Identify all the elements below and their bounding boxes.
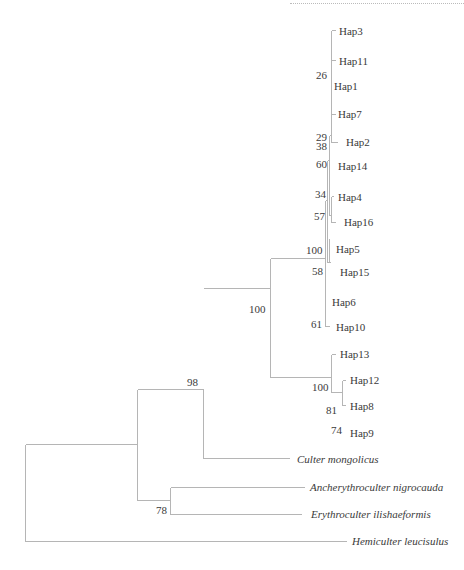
tip-label-hap14: Hap14 xyxy=(338,160,367,172)
tip-label-hap1: Hap1 xyxy=(334,80,358,92)
tip-label-hap4: Hap4 xyxy=(338,191,362,203)
tip-label-hemiculter-leucisulus: Hemiculter leucisulus xyxy=(352,535,448,547)
bootstrap-value: 78 xyxy=(156,504,167,516)
bootstrap-value: 100 xyxy=(306,244,323,256)
tip-label-hap10: Hap10 xyxy=(336,321,365,333)
bootstrap-value: 81 xyxy=(326,404,337,416)
bootstrap-value: 26 xyxy=(316,69,327,81)
tip-label-ancherythroculter-nigrocauda: Ancherythroculter nigrocauda xyxy=(310,481,443,493)
tip-label-hap12: Hap12 xyxy=(350,374,379,386)
tip-label-hap7: Hap7 xyxy=(338,108,362,120)
tip-label-hap11: Hap11 xyxy=(339,55,368,67)
bootstrap-value: 57 xyxy=(314,210,325,222)
bootstrap-value: 58 xyxy=(312,265,323,277)
tip-label-hap2: Hap2 xyxy=(346,136,370,148)
tip-label-hap13: Hap13 xyxy=(340,348,369,360)
bootstrap-value: 74 xyxy=(331,424,342,436)
tip-label-hap16: Hap16 xyxy=(344,216,373,228)
tip-label-hap9: Hap9 xyxy=(350,427,374,439)
bootstrap-value: 38 xyxy=(316,140,327,152)
tip-label-hap15: Hap15 xyxy=(340,266,369,278)
tip-label-hap5: Hap5 xyxy=(336,243,360,255)
tip-label-culter-mongolicus: Culter mongolicus xyxy=(297,453,379,465)
tip-label-erythroculter-ilishaeformis: Erythroculter ilishaeformis xyxy=(311,508,431,520)
bootstrap-value: 34 xyxy=(315,188,326,200)
bootstrap-value: 60 xyxy=(316,158,327,170)
bootstrap-value: 100 xyxy=(312,381,329,393)
tip-label-hap3: Hap3 xyxy=(339,25,363,37)
bootstrap-value: 61 xyxy=(311,318,322,330)
bootstrap-value: 100 xyxy=(249,303,266,315)
bootstrap-value: 98 xyxy=(187,376,198,388)
tip-label-hap6: Hap6 xyxy=(332,296,356,308)
tip-label-hap8: Hap8 xyxy=(350,400,374,412)
